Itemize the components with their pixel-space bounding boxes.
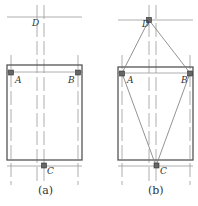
marker-a <box>120 71 125 76</box>
label-c-a: C <box>47 166 54 176</box>
label-a-b: A <box>127 75 134 85</box>
marker-c <box>154 163 159 168</box>
label-b-b: B <box>181 75 188 85</box>
label-d-b: D <box>142 19 149 29</box>
marker-b <box>188 71 193 76</box>
marker-b <box>76 70 81 75</box>
diagram-canvas <box>0 0 198 206</box>
label-c-b: C <box>160 166 167 176</box>
caption-b: (b) <box>148 184 164 197</box>
marker-c <box>42 163 47 168</box>
marker-a <box>9 70 14 75</box>
panel-a <box>7 5 82 185</box>
label-a-a: A <box>15 75 22 85</box>
label-b-a: B <box>68 75 75 85</box>
label-d-a: D <box>32 18 39 28</box>
panel-b <box>118 5 193 185</box>
caption-a: (a) <box>38 184 53 197</box>
panel-b-markers <box>120 18 193 169</box>
